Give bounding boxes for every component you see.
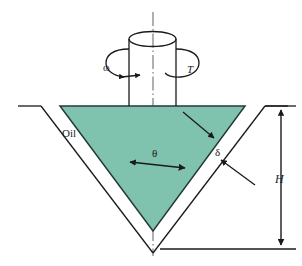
angular-velocity-label: ω	[103, 63, 110, 73]
torque-label: T	[187, 64, 193, 75]
height-label: H	[275, 173, 284, 185]
angular-velocity-arrow	[106, 49, 140, 77]
oil-label: Oil	[62, 128, 76, 139]
figure-container: ω T Oil θ δ H	[0, 0, 302, 266]
cone-viscometer-diagram	[0, 0, 302, 266]
cone-half-angle-label: θ	[152, 148, 157, 159]
gap-thickness-label: δ	[215, 147, 220, 158]
gap-leader-arrow	[221, 160, 255, 185]
torque-arrow	[165, 49, 199, 77]
